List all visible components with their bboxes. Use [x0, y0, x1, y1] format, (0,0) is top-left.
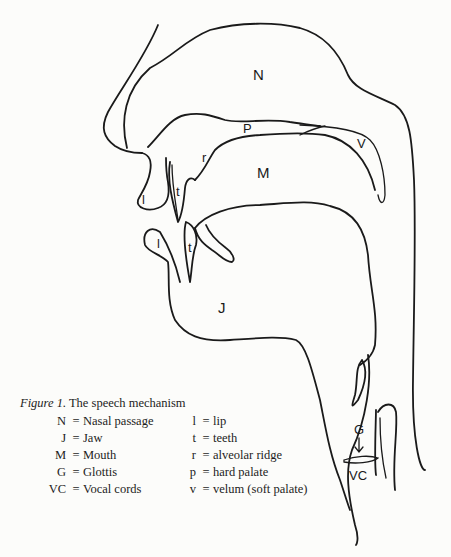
- label-jaw: J: [218, 299, 226, 316]
- legend-item: p=hard palate: [184, 464, 354, 480]
- upper-teeth: [169, 162, 195, 222]
- velum-top: [300, 125, 385, 203]
- nose-outline: [104, 25, 158, 153]
- caption-number: Figure 1.: [20, 396, 66, 410]
- label-mouth: M: [257, 164, 270, 181]
- vocal-fold-back-1: [375, 410, 376, 475]
- label-alveolar-ridge: r: [202, 150, 207, 165]
- figure-caption: Figure 1. The speech mechanism N=Nasal p…: [20, 396, 354, 497]
- legend-item: J=Jaw: [34, 430, 184, 446]
- mouth-roof: [195, 133, 375, 190]
- label-lower-lip: l: [157, 236, 160, 251]
- hard-palate-top: [148, 114, 320, 147]
- legend-item: t=teeth: [184, 430, 354, 446]
- legend-item: VC=Vocal cords: [34, 481, 184, 497]
- tongue-tip: [195, 225, 234, 262]
- legend: N=Nasal passage l=lip J=Jaw t=teeth M=Mo…: [34, 413, 354, 497]
- legend-item: G=Glottis: [34, 464, 184, 480]
- caption-title: Figure 1. The speech mechanism: [20, 396, 354, 411]
- label-upper-teeth: t: [176, 184, 180, 199]
- epiglottis: [352, 360, 365, 405]
- label-hard-palate: P: [243, 121, 252, 136]
- label-lower-teeth: t: [188, 240, 192, 255]
- vocal-fold-back-3: [380, 418, 386, 478]
- label-velum: V: [357, 136, 366, 151]
- legend-item: l=lip: [184, 413, 354, 429]
- label-nasal-passage: N: [253, 66, 264, 83]
- legend-item: r=alveolar ridge: [184, 447, 354, 463]
- legend-item: M=Mouth: [34, 447, 184, 463]
- caption-text: The speech mechanism: [69, 396, 186, 410]
- legend-item: N=Nasal passage: [34, 413, 184, 429]
- label-glottis: G: [354, 422, 364, 437]
- legend-item: v=velum (soft palate): [184, 481, 354, 497]
- label-upper-lip: l: [142, 192, 145, 207]
